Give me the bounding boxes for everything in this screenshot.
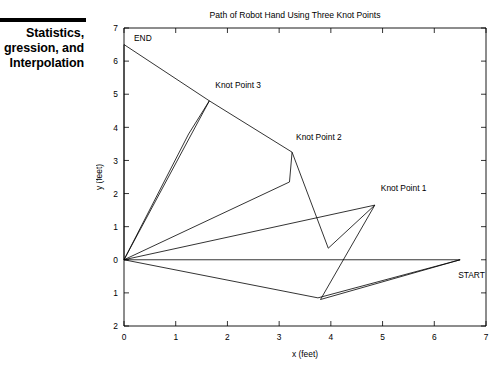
annotation-knot-point-2: Knot Point 2 [296,132,342,142]
y-tick-label: 5 [113,89,118,99]
y-axis-title: y (feet) [96,164,104,190]
x-tick-label: 5 [380,332,385,342]
x-axis-title: x (feet) [292,349,318,359]
y-tick-label: 7 [113,23,118,33]
chart-figure: Path of Robot Hand Using Three Knot Poin… [96,10,494,360]
annotation-knot-point-3: Knot Point 3 [215,80,261,90]
y-tick-label: 3 [113,156,118,166]
x-tick-label: 1 [173,332,178,342]
y-tick-label: 4 [113,123,118,133]
x-tick-label: 6 [432,332,437,342]
annotation-knot-point-1: Knot Point 1 [381,183,427,193]
path-series-0 [124,45,460,300]
x-tick-label: 0 [122,332,127,342]
x-tick-label: 4 [329,332,334,342]
y-tick-label: 1 [113,288,118,298]
path-series-2 [124,45,292,153]
y-tick-label: 1 [113,222,118,232]
annotation-start: START [458,270,485,280]
x-tick-label: 2 [225,332,230,342]
x-tick-label: 7 [484,332,489,342]
x-tick-label: 3 [277,332,282,342]
screenshot-root: Statistics, gression, and Interpolation … [0,0,500,367]
chapter-title: Statistics, gression, and Interpolation [0,26,86,71]
chapter-rule-divider [0,18,86,22]
chapter-banner: Statistics, gression, and Interpolation [0,18,86,71]
plot-canvas: 012345677654321012x (feet)y (feet)ENDSTA… [96,10,494,360]
y-tick-label: 2 [113,321,118,331]
y-tick-label: 0 [113,255,118,265]
y-tick-label: 6 [113,56,118,66]
annotation-end: END [134,33,152,43]
path-series-1 [124,205,460,298]
y-tick-label: 2 [113,189,118,199]
